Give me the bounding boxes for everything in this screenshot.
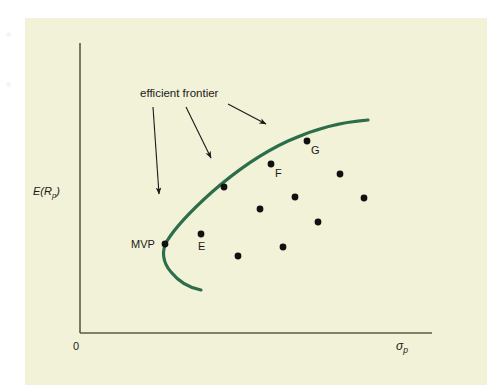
- data-point: [337, 171, 344, 178]
- point-label-g: G: [311, 145, 320, 156]
- scatter-points: [162, 138, 368, 260]
- efficient-frontier-curve: [164, 120, 368, 290]
- data-point: [280, 244, 287, 251]
- data-point: [292, 194, 299, 201]
- data-point: [315, 219, 322, 226]
- point-label-mvp: MVP: [131, 239, 155, 250]
- arrow-to-mid-frontier: [186, 107, 211, 158]
- axis-lines: [80, 43, 432, 333]
- x-axis-label-sub: p: [403, 345, 408, 355]
- y-axis-label: E(Rp): [33, 186, 60, 200]
- data-point: [221, 184, 228, 191]
- point-label-f: F: [275, 168, 282, 179]
- figure-container: efficient frontier E(Rp) σp 0 MVP E F G: [0, 0, 495, 385]
- annotation-arrows: [153, 104, 266, 194]
- arrow-to-upper-frontier: [228, 104, 266, 124]
- y-axis-label-close: ): [56, 185, 60, 197]
- data-point: [361, 195, 368, 202]
- origin-label: 0: [73, 341, 79, 352]
- data-point-mvp: [162, 241, 169, 248]
- annotation-efficient-frontier: efficient frontier: [140, 88, 218, 100]
- data-point-g: [304, 138, 311, 145]
- data-point-f: [268, 161, 275, 168]
- point-label-e: E: [198, 241, 205, 252]
- data-point: [257, 206, 264, 213]
- frontier-path: [164, 120, 368, 290]
- data-point: [235, 253, 242, 260]
- y-axis-label-main: E(R: [33, 185, 52, 197]
- x-axis-label: σp: [396, 340, 408, 355]
- arrow-to-lower-frontier: [153, 107, 159, 194]
- plot-svg: [0, 0, 495, 385]
- data-point-e: [198, 231, 205, 238]
